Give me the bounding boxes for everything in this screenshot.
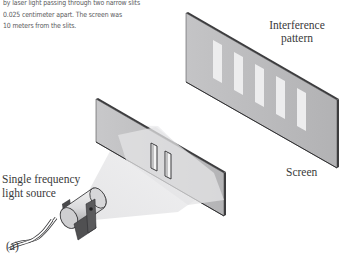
slit-2 xyxy=(165,151,171,179)
screen-label: Screen xyxy=(286,166,317,179)
panel-label: (a) xyxy=(6,240,19,253)
interference-pattern-label-line-2: pattern xyxy=(252,32,342,45)
light-source-label-line-2: light source xyxy=(2,186,80,200)
light-source-label-line-1: Single frequency xyxy=(2,172,80,186)
interference-pattern-label-line-1: Interference xyxy=(252,19,342,32)
interference-pattern-label: Interference pattern xyxy=(252,19,342,45)
slit-1 xyxy=(151,143,157,171)
light-source-label: Single frequency light source xyxy=(2,172,80,200)
